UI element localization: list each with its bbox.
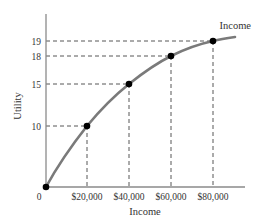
data-point	[84, 123, 91, 130]
guide-lines	[46, 41, 213, 187]
data-point	[126, 81, 133, 88]
x-tick-label: $20,000	[72, 192, 103, 202]
y-tick-label: 19	[32, 37, 42, 47]
utility-income-chart: 19 18 15 10 0 $20,000 $40,000 $60,000 $8…	[0, 0, 263, 224]
y-tick-label: 18	[32, 52, 42, 62]
x-tick-label: $40,000	[114, 192, 145, 202]
y-axis-title: Utility	[12, 92, 23, 120]
x-axis-title: Income	[129, 206, 161, 217]
curve-label: Income	[220, 20, 252, 31]
y-tick-label: 15	[32, 80, 42, 90]
utility-curve	[46, 37, 235, 187]
x-tick-label: $80,000	[198, 192, 229, 202]
data-point	[168, 53, 175, 60]
x-tick-label: 0	[37, 192, 42, 202]
data-points	[43, 38, 217, 191]
data-point	[210, 38, 217, 45]
data-point	[43, 184, 50, 191]
y-tick-label: 10	[32, 122, 42, 132]
x-tick-label: $60,000	[156, 192, 187, 202]
